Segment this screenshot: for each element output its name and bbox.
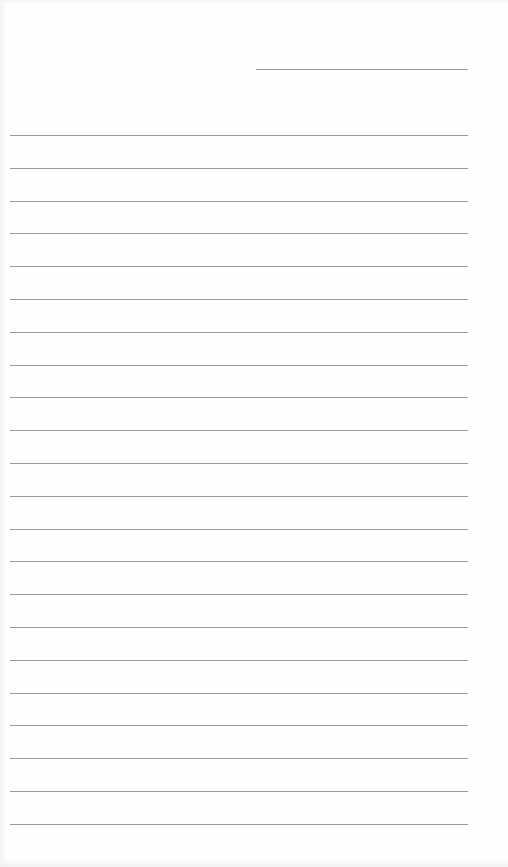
ruled-line <box>10 758 468 759</box>
ruled-line <box>10 365 468 366</box>
lined-page <box>0 0 508 867</box>
ruled-line <box>10 168 468 169</box>
ruled-line <box>10 332 468 333</box>
ruled-line <box>10 725 468 726</box>
scan-edge-shadow-left <box>0 0 6 867</box>
scan-edge-shadow-bottom <box>0 859 508 867</box>
ruled-line <box>10 627 468 628</box>
scan-edge-shadow-top <box>0 0 508 4</box>
ruled-line <box>10 135 468 136</box>
ruled-line <box>10 266 468 267</box>
header-signature-line <box>256 69 468 70</box>
ruled-line <box>10 397 468 398</box>
ruled-line <box>10 463 468 464</box>
ruled-line <box>10 299 468 300</box>
ruled-line <box>10 561 468 562</box>
ruled-line <box>10 660 468 661</box>
ruled-line <box>10 201 468 202</box>
ruled-line <box>10 529 468 530</box>
faint-header-text <box>160 28 340 42</box>
ruled-line <box>10 430 468 431</box>
ruled-line <box>10 233 468 234</box>
ruled-line <box>10 496 468 497</box>
ruled-line <box>10 594 468 595</box>
ruled-line <box>10 693 468 694</box>
ruled-line <box>10 824 468 825</box>
ruled-line <box>10 791 468 792</box>
